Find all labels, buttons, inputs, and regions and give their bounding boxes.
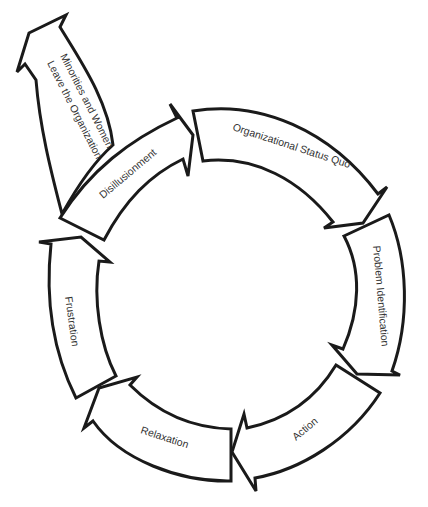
- stage-action: Action: [232, 365, 380, 491]
- stage-problem-identification: Problem Identification: [332, 215, 404, 375]
- stage-status-quo: Organizational Status Quo: [193, 109, 387, 228]
- problem-identification-arrow: [332, 215, 404, 375]
- stage-relaxation: Relaxation: [84, 377, 231, 481]
- stage-frustration: Frustration: [39, 237, 116, 398]
- status-quo-arrow: [193, 109, 387, 228]
- cycle-diagram: Minorities and Women Leave the Organizat…: [0, 0, 428, 507]
